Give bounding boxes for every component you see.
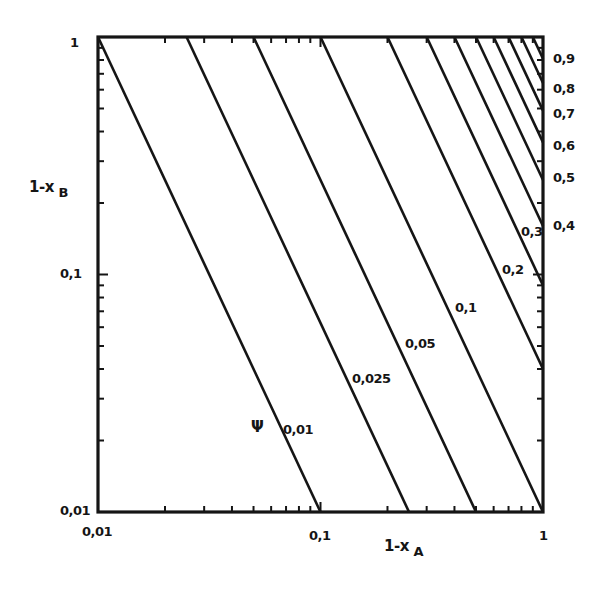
y-tick-label-0-01: 0,01 xyxy=(60,503,90,518)
line-label-0-05: 0,05 xyxy=(405,336,435,351)
x-tick-label-1: 1 xyxy=(539,528,548,543)
chart-plot xyxy=(0,0,597,590)
x-axis-title-main: 1-x xyxy=(384,537,409,555)
y-axis-title-sub: B xyxy=(59,185,68,200)
psi-line xyxy=(387,37,543,369)
edge-label-0-9: 0,9 xyxy=(553,51,575,66)
line-label-0-01: 0,01 xyxy=(283,422,313,437)
line-label-0-025: 0,025 xyxy=(352,371,391,386)
y-tick-label-1: 1 xyxy=(70,35,79,50)
edge-label-0-8: 0,8 xyxy=(553,81,575,96)
x-axis-title: 1-x A xyxy=(384,537,423,555)
x-tick-label-0-1: 0,1 xyxy=(309,528,331,543)
axis-ticks xyxy=(98,37,543,512)
psi-symbol: Ψ xyxy=(251,418,263,436)
line-label-0-3: 0,3 xyxy=(521,224,543,239)
y-axis-title-main: 1-x xyxy=(29,178,54,196)
x-tick-label-0-01: 0,01 xyxy=(82,524,112,539)
line-label-0-1: 0,1 xyxy=(455,300,477,315)
psi-line xyxy=(187,37,410,512)
plot-frame xyxy=(98,37,543,512)
line-label-0-2: 0,2 xyxy=(502,262,524,277)
psi-line xyxy=(454,37,543,226)
edge-label-0-6: 0,6 xyxy=(553,138,575,153)
psi-line xyxy=(476,37,543,180)
edge-label-0-5: 0,5 xyxy=(553,170,575,185)
x-axis-title-sub: A xyxy=(414,544,424,559)
edge-label-0-4: 0,4 xyxy=(553,218,575,233)
y-axis-title: 1-x B xyxy=(29,178,68,196)
psi-lines xyxy=(98,37,543,512)
edge-label-0-7: 0,7 xyxy=(553,106,575,121)
y-tick-label-0-1: 0,1 xyxy=(60,266,82,281)
